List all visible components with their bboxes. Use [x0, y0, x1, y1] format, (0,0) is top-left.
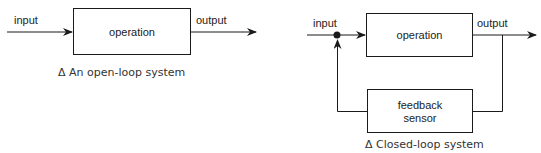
closed-output-label: output	[477, 17, 508, 29]
open-loop-caption: Δ An open-loop system	[58, 66, 185, 79]
feedback-label-line2: sensor	[403, 112, 436, 125]
closed-input-label: input	[313, 17, 337, 29]
feedback-path-right	[472, 35, 503, 112]
feedback-path-left	[338, 40, 368, 112]
feedback-sensor-label: feedback sensor	[368, 90, 472, 133]
feedback-label-line1: feedback	[398, 99, 443, 112]
open-operation-label: operation	[74, 9, 190, 55]
closed-loop-caption: Δ Closed-loop system	[365, 138, 484, 151]
open-input-label: input	[14, 14, 38, 26]
closed-operation-label: operation	[367, 14, 472, 57]
open-output-label: output	[196, 14, 227, 26]
